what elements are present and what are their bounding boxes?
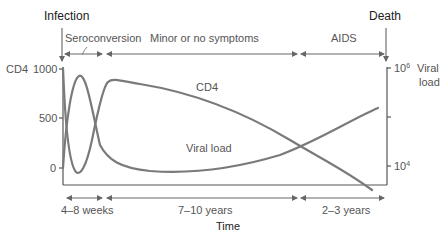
- duration-7-10-years: 7–10 years: [178, 205, 232, 216]
- infection-label: Infection: [44, 10, 89, 22]
- phase-minor-symptoms: Minor or no symptoms: [150, 33, 259, 44]
- curves: [63, 68, 378, 190]
- right-tick-10e6: 106: [394, 63, 410, 74]
- hiv-course-diagram: Infection Death Seroconversion Minor or …: [0, 0, 443, 235]
- duration-4-8-weeks: 4–8 weeks: [61, 205, 114, 216]
- left-axis-title: CD4: [6, 64, 28, 75]
- right-tick-10e4: 104: [394, 161, 410, 172]
- x-axis-title: Time: [216, 221, 240, 232]
- duration-2-3-years: 2–3 years: [322, 205, 370, 216]
- phase-seroconversion: Seroconversion: [65, 33, 141, 44]
- death-label: Death: [369, 10, 401, 22]
- left-tick-1000: 1000: [33, 64, 57, 75]
- phase-aids: AIDS: [331, 33, 357, 44]
- left-tick-500: 500: [39, 113, 57, 124]
- right-axis-title-load: load: [419, 77, 440, 88]
- top-phase-arrows: [65, 47, 384, 55]
- right-axis-title-viral: Viral: [417, 63, 439, 74]
- left-tick-0: 0: [50, 163, 56, 174]
- viral-load-curve-label: Viral load: [186, 143, 232, 154]
- cd4-curve-label: CD4: [196, 82, 218, 93]
- viral-load-curve: [63, 76, 378, 172]
